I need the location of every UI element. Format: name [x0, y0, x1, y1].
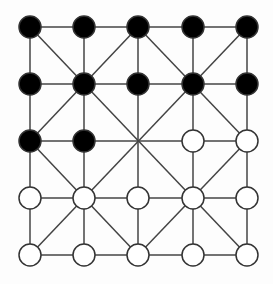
black-piece[interactable]: [127, 16, 149, 38]
white-piece[interactable]: [182, 244, 204, 266]
black-piece[interactable]: [127, 73, 149, 95]
white-piece[interactable]: [19, 187, 41, 209]
white-piece[interactable]: [73, 187, 95, 209]
white-piece[interactable]: [19, 244, 41, 266]
black-piece[interactable]: [73, 16, 95, 38]
white-piece[interactable]: [127, 187, 149, 209]
white-piece[interactable]: [182, 130, 204, 152]
white-piece[interactable]: [236, 244, 258, 266]
black-piece[interactable]: [182, 16, 204, 38]
black-piece[interactable]: [19, 16, 41, 38]
empty-point[interactable]: [127, 130, 149, 152]
white-piece[interactable]: [236, 130, 258, 152]
white-piece[interactable]: [236, 187, 258, 209]
black-piece[interactable]: [182, 73, 204, 95]
game-board: [0, 0, 273, 284]
white-piece[interactable]: [182, 187, 204, 209]
black-piece[interactable]: [73, 130, 95, 152]
white-piece[interactable]: [127, 244, 149, 266]
black-piece[interactable]: [19, 73, 41, 95]
board-svg: [0, 0, 273, 284]
black-piece[interactable]: [236, 73, 258, 95]
white-piece[interactable]: [73, 244, 95, 266]
black-piece[interactable]: [19, 130, 41, 152]
black-piece[interactable]: [73, 73, 95, 95]
black-piece[interactable]: [236, 16, 258, 38]
